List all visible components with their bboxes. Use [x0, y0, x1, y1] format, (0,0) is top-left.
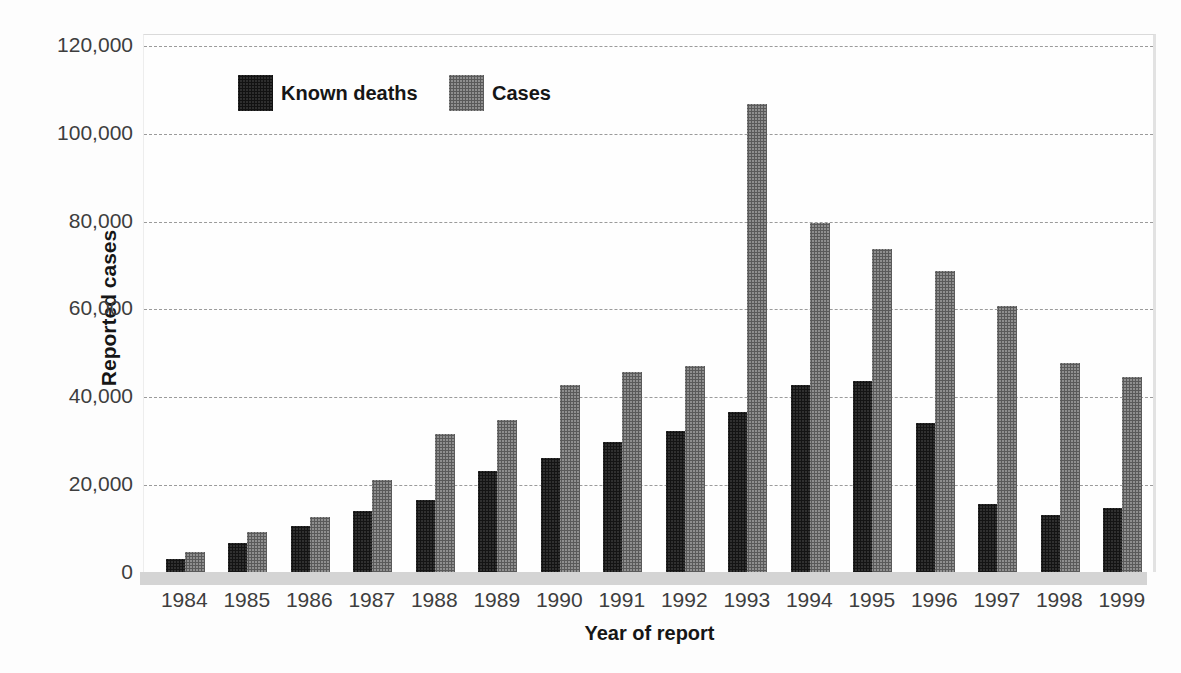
bar-group-1987 — [342, 35, 405, 572]
y-tick-label-40000: 40,000 — [69, 383, 133, 409]
legend-item-known-deaths: Known deaths — [238, 75, 418, 111]
x-tick-label-1999: 1999 — [1091, 588, 1154, 612]
bar-group-1999 — [1092, 35, 1155, 572]
bar-cases-1991 — [622, 372, 642, 572]
bar-known-deaths-1986 — [291, 526, 310, 572]
x-tick-label-1984: 1984 — [153, 588, 216, 612]
x-tick-label-1997: 1997 — [966, 588, 1029, 612]
bar-known-deaths-1991 — [603, 442, 622, 572]
legend-label-known-deaths: Known deaths — [281, 82, 418, 105]
x-tick-label-1989: 1989 — [466, 588, 529, 612]
bar-known-deaths-1987 — [353, 511, 372, 572]
bar-known-deaths-1998 — [1041, 515, 1060, 572]
bar-group-1991 — [592, 35, 655, 572]
x-tick-label-1996: 1996 — [903, 588, 966, 612]
bar-known-deaths-1988 — [416, 500, 435, 572]
bar-cases-1987 — [372, 480, 392, 572]
bar-cases-1996 — [935, 271, 955, 572]
bar-known-deaths-1989 — [478, 471, 497, 572]
bar-known-deaths-1994 — [791, 385, 810, 572]
x-tick-label-1995: 1995 — [841, 588, 904, 612]
bar-cases-1997 — [997, 306, 1017, 572]
x-axis-title: Year of report — [143, 622, 1156, 645]
y-tick-label-60000: 60,000 — [69, 295, 133, 321]
bar-cases-1993 — [747, 104, 767, 572]
bar-cases-1998 — [1060, 363, 1080, 572]
x-tick-label-1992: 1992 — [653, 588, 716, 612]
bar-known-deaths-1997 — [978, 504, 997, 572]
bar-group-1984 — [154, 35, 217, 572]
bar-group-1997 — [967, 35, 1030, 572]
legend-swatch-known-deaths-icon — [238, 75, 273, 111]
plot-area: Known deaths Cases — [143, 34, 1156, 572]
bar-group-1996 — [904, 35, 967, 572]
bar-group-1992 — [654, 35, 717, 572]
bar-cases-1986 — [310, 517, 330, 572]
bar-cases-1992 — [685, 366, 705, 572]
legend-label-cases: Cases — [492, 82, 551, 105]
x-tick-label-1993: 1993 — [716, 588, 779, 612]
bar-group-1985 — [217, 35, 280, 572]
y-tick-label-80000: 80,000 — [69, 208, 133, 234]
bar-cases-1999 — [1122, 377, 1142, 572]
bar-known-deaths-1995 — [853, 381, 872, 572]
x-axis-tick-labels: 1984198519861987198819891990199119921993… — [153, 588, 1153, 612]
x-tick-label-1991: 1991 — [591, 588, 654, 612]
bar-cases-1990 — [560, 385, 580, 572]
x-tick-label-1994: 1994 — [778, 588, 841, 612]
bar-group-1990 — [529, 35, 592, 572]
bar-group-1986 — [279, 35, 342, 572]
bar-known-deaths-1984 — [166, 559, 185, 572]
bar-group-1998 — [1029, 35, 1092, 572]
x-tick-label-1990: 1990 — [528, 588, 591, 612]
bar-row — [154, 35, 1154, 572]
bar-cases-1988 — [435, 434, 455, 572]
bar-group-1989 — [467, 35, 530, 572]
bar-cases-1989 — [497, 420, 517, 572]
x-axis-baseline-strip — [140, 572, 1147, 585]
bar-group-1994 — [779, 35, 842, 572]
x-tick-label-1985: 1985 — [216, 588, 279, 612]
y-tick-label-120000: 120,000 — [57, 32, 133, 58]
x-tick-label-1988: 1988 — [403, 588, 466, 612]
bar-group-1995 — [842, 35, 905, 572]
bar-chart-figure: Reported cases 020,00040,00060,00080,000… — [0, 0, 1181, 673]
bar-cases-1995 — [872, 249, 892, 572]
y-tick-label-20000: 20,000 — [69, 471, 133, 497]
bar-known-deaths-1990 — [541, 458, 560, 572]
bar-cases-1994 — [810, 223, 830, 572]
bar-group-1993 — [717, 35, 780, 572]
legend-item-cases: Cases — [449, 75, 551, 111]
legend-swatch-cases-icon — [449, 75, 484, 111]
bar-known-deaths-1996 — [916, 423, 935, 572]
bar-cases-1984 — [185, 552, 205, 572]
bar-known-deaths-1985 — [228, 543, 247, 572]
x-tick-label-1987: 1987 — [341, 588, 404, 612]
bar-group-1988 — [404, 35, 467, 572]
y-tick-label-100000: 100,000 — [57, 120, 133, 146]
x-tick-label-1998: 1998 — [1028, 588, 1091, 612]
bar-cases-1985 — [247, 532, 267, 572]
bar-known-deaths-1993 — [728, 412, 747, 572]
y-tick-label-0: 0 — [121, 559, 133, 585]
bar-known-deaths-1992 — [666, 431, 685, 572]
x-tick-label-1986: 1986 — [278, 588, 341, 612]
bar-known-deaths-1999 — [1103, 508, 1122, 572]
